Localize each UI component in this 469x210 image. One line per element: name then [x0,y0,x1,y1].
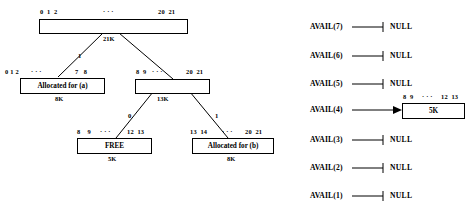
avail-row-label-6[interactable]: AVAIL(6) [310,51,343,60]
root-index-left: 0 1 2 [40,8,57,15]
edge-label-13k-right: 1 [215,112,218,119]
free-index-mid: · · · [100,128,111,135]
avail-row-target-1: NULL [390,191,412,200]
avail-row-label-1[interactable]: AVAIL(1) [310,191,343,200]
avail-4-arrow [352,106,402,114]
tree-node-alloc-a[interactable]: Allocated for (a) [20,78,105,94]
tree-node-root-size: 21K [103,35,114,42]
tree-node-alloc-a-label: Allocated for (a) [37,82,87,90]
edge-label-root-left: 1 [78,52,81,59]
avail-row-target-5: NULL [390,79,412,88]
alloc-b-index-mid: · · · [222,128,233,135]
tree-node-alloc-a-size: 8K [55,95,63,102]
avail-4-block-index-mid: · · · [422,93,433,100]
tree-node-alloc-b[interactable]: Allocated for (b) [192,138,274,154]
tree-node-alloc-b-label: Allocated for (b) [208,142,259,150]
edge-label-13k-left: 0 [128,112,131,119]
root-index-right: 20 21 [158,8,175,15]
avail-row-target-7: NULL [390,22,412,31]
alloc-a-index-mid: · · · [31,68,42,75]
tree-node-13k[interactable] [135,79,210,94]
tree-node-13k-size: 13K [157,95,168,102]
free-index-left: 8 9 [77,128,91,135]
root-index-mid: · · · [103,8,114,15]
avail-row-label-4[interactable]: AVAIL(4) [310,105,343,114]
node-13k-index-left: 8 9 [136,68,146,75]
avail-4-block[interactable]: 5K [402,103,465,119]
alloc-a-index-right: 7 8 [75,68,87,75]
avail-4-block-index-right: 12 13 [441,93,458,100]
avail-row-target-2: NULL [390,163,412,172]
avail-4-block-size: 5K [429,107,438,115]
node-13k-index-right: 20 21 [186,68,203,75]
tree-node-root[interactable] [39,19,188,34]
avail-row-label-2[interactable]: AVAIL(2) [310,163,343,172]
tree-node-free[interactable]: FREE [77,138,152,154]
alloc-a-index-left: 0 1 2 [5,68,19,75]
avail-row-label-5[interactable]: AVAIL(5) [310,79,343,88]
avail-4-block-index-left: 8 9 [403,93,413,100]
avail-row-target-3: NULL [390,135,412,144]
avail-row-label-7[interactable]: AVAIL(7) [310,22,343,31]
alloc-b-index-right: 20 21 [245,128,262,135]
figure-canvas: 0 1 2 · · · 20 21 21K 1 0 1 2 · · · 7 8 … [0,0,469,210]
tree-node-free-label: FREE [105,142,124,150]
tree-node-free-size: 5K [108,155,116,162]
tree-node-alloc-b-size: 8K [227,155,235,162]
avail-row-target-6: NULL [390,51,412,60]
alloc-b-index-left: 13 14 [190,128,207,135]
node-13k-index-mid: · · · [152,68,163,75]
free-index-right: 12 13 [127,128,144,135]
avail-row-label-3[interactable]: AVAIL(3) [310,135,343,144]
